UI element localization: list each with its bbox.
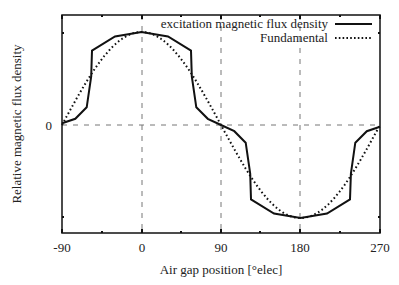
chart-canvas: -90 0 90 180 270 0 Air gap position [°el… bbox=[0, 0, 399, 285]
x-tick-label: 180 bbox=[290, 240, 310, 255]
legend: excitation magnetic flux density Fundame… bbox=[161, 16, 372, 45]
x-tick-label: -90 bbox=[53, 240, 70, 255]
legend-label-fundamental: Fundamental bbox=[260, 30, 328, 45]
y-tick-label: 0 bbox=[46, 118, 53, 133]
y-axis-label: Relative magnetic flux density bbox=[9, 44, 24, 204]
x-tick-label: 0 bbox=[139, 240, 146, 255]
x-axis-label: Air gap position [°elec] bbox=[160, 262, 283, 277]
x-tick-labels: -90 0 90 180 270 bbox=[53, 240, 389, 255]
x-tick-label: 90 bbox=[215, 240, 228, 255]
legend-label-excitation: excitation magnetic flux density bbox=[161, 16, 329, 31]
x-tick-label: 270 bbox=[370, 240, 390, 255]
